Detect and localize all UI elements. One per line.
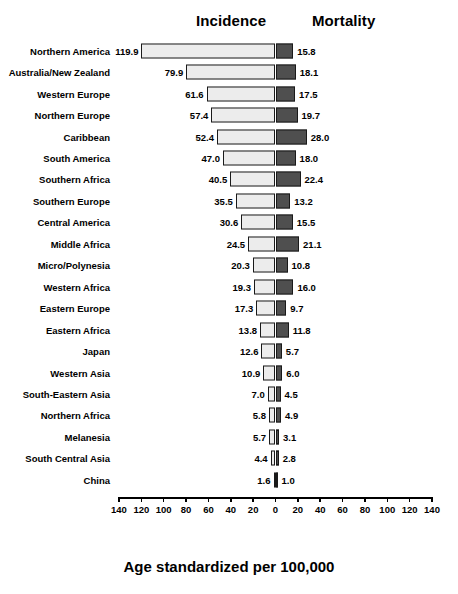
region-label: Western Africa	[43, 281, 110, 292]
mortality-bar	[276, 429, 279, 444]
incidence-value: 47.0	[201, 153, 220, 164]
incidence-value: 119.9	[115, 45, 138, 56]
mortality-value: 18.1	[300, 67, 319, 78]
chart-row: Southern Europe35.513.2	[0, 190, 458, 212]
x-axis-tick-label: 40	[225, 504, 236, 515]
x-axis-tick	[252, 497, 254, 502]
region-label: Caribbean	[64, 131, 110, 142]
incidence-bar	[260, 322, 275, 337]
chart-row: Northern America119.915.8	[0, 40, 458, 62]
mortality-bar	[276, 172, 301, 187]
region-label: South-Eastern Asia	[23, 388, 110, 399]
x-axis-tick	[275, 497, 277, 502]
incidence-value: 19.3	[232, 281, 251, 292]
incidence-value: 30.6	[220, 217, 239, 228]
incidence-bar	[261, 344, 275, 359]
chart-row: Australia/New Zealand79.918.1	[0, 61, 458, 83]
mortality-value: 28.0	[311, 131, 330, 142]
mortality-value: 2.8	[283, 453, 296, 464]
chart-container: Incidence Mortality Northern America119.…	[0, 0, 458, 594]
mortality-bar	[276, 236, 300, 251]
mortality-value: 11.8	[293, 324, 311, 335]
mortality-bar	[276, 365, 283, 380]
incidence-value: 52.4	[195, 131, 214, 142]
region-label: Japan	[83, 346, 110, 357]
x-axis-tick-label: 140	[424, 504, 440, 515]
x-axis-tick	[118, 497, 120, 502]
chart-row: Central America30.615.5	[0, 212, 458, 234]
region-label: Melanesia	[65, 431, 110, 442]
x-axis-tick	[230, 497, 232, 502]
region-label: Southern Africa	[39, 174, 110, 185]
incidence-value: 7.0	[251, 388, 264, 399]
incidence-bar	[241, 215, 275, 230]
x-axis-tick-label: 120	[133, 504, 149, 515]
mortality-value: 3.1	[283, 431, 296, 442]
incidence-value: 5.8	[253, 410, 266, 421]
region-label: Southern Europe	[33, 195, 110, 206]
chart-row: Northern Europe57.419.7	[0, 104, 458, 126]
incidence-bar	[263, 365, 275, 380]
incidence-value: 13.8	[239, 324, 258, 335]
x-axis: 14012010080604020020406080100120140	[0, 497, 458, 537]
incidence-bar	[269, 408, 275, 423]
incidence-value: 20.3	[231, 260, 250, 271]
incidence-bar	[268, 386, 276, 401]
incidence-bar	[248, 236, 275, 251]
mortality-value: 9.7	[290, 303, 303, 314]
mortality-bar	[276, 129, 307, 144]
mortality-value: 18.0	[300, 153, 319, 164]
chart-row: Western Africa19.316.0	[0, 276, 458, 298]
mortality-bar	[276, 344, 282, 359]
incidence-bar	[141, 43, 275, 58]
incidence-value: 12.6	[240, 346, 259, 357]
mortality-bar	[276, 322, 289, 337]
region-label: Eastern Africa	[46, 324, 110, 335]
mortality-value: 19.7	[302, 110, 321, 121]
region-label: Micro/Polynesia	[38, 260, 110, 271]
x-axis-tick	[364, 497, 366, 502]
region-label: Middle Africa	[51, 238, 110, 249]
mortality-value: 5.7	[286, 346, 299, 357]
region-label: Northern Europe	[35, 110, 110, 121]
incidence-bar	[207, 86, 276, 101]
chart-row: Caribbean52.428.0	[0, 126, 458, 148]
x-axis-tick-label: 100	[156, 504, 172, 515]
chart-row: China1.61.0	[0, 469, 458, 491]
chart-row: Melanesia5.73.1	[0, 426, 458, 448]
mortality-bar	[276, 386, 281, 401]
incidence-bar	[186, 65, 275, 80]
incidence-value: 24.5	[227, 238, 246, 249]
chart-row: Western Europe61.617.5	[0, 83, 458, 105]
column-header-mortality: Mortality	[312, 12, 375, 29]
region-label: Northern Africa	[41, 410, 110, 421]
region-label: Eastern Europe	[40, 303, 110, 314]
incidence-value: 35.5	[214, 195, 233, 206]
x-axis-tick-label: 60	[337, 504, 348, 515]
mortality-bar	[276, 43, 294, 58]
x-axis-tick	[342, 497, 344, 502]
mortality-value: 21.1	[303, 238, 322, 249]
region-label: China	[84, 474, 110, 485]
x-axis-tick	[431, 497, 433, 502]
incidence-value: 5.7	[253, 431, 266, 442]
region-label: South Central Asia	[25, 453, 110, 464]
chart-row: Micro/Polynesia20.310.8	[0, 255, 458, 277]
incidence-value: 61.6	[185, 88, 204, 99]
plot-area: Northern America119.915.8Australia/New Z…	[0, 38, 458, 516]
mortality-bar	[276, 451, 279, 466]
x-axis-tick-label: 80	[181, 504, 192, 515]
x-axis-tick-label: 20	[248, 504, 259, 515]
x-axis-tick	[185, 497, 187, 502]
mortality-bar	[276, 301, 287, 316]
mortality-value: 4.5	[285, 388, 298, 399]
mortality-value: 6.0	[286, 367, 299, 378]
chart-row: Eastern Europe17.39.7	[0, 297, 458, 319]
incidence-value: 17.3	[235, 303, 254, 314]
mortality-bar	[276, 65, 296, 80]
incidence-bar	[217, 129, 276, 144]
mortality-value: 22.4	[305, 174, 324, 185]
x-axis-tick-label: 140	[111, 504, 127, 515]
chart-row: South America47.018.0	[0, 147, 458, 169]
incidence-bar	[211, 108, 275, 123]
